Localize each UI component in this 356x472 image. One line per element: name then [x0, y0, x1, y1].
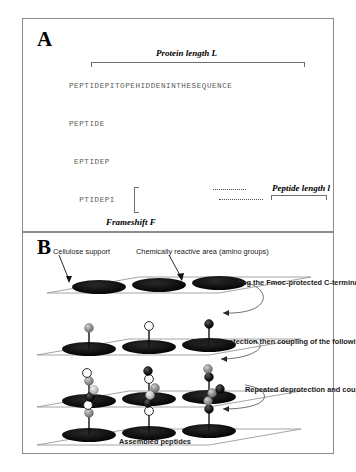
frameshift-bracket	[134, 187, 139, 213]
panel-b: B	[22, 232, 334, 454]
dotted-leader-upper	[213, 189, 246, 190]
assembled-peptides-label: Assembled peptides	[119, 437, 191, 446]
step2-label: Fmoc deprotection then coupling of the f…	[191, 337, 331, 346]
frameshift-label: Frameshift F	[106, 217, 156, 227]
residue-bead	[145, 322, 154, 331]
panel-a: A Protein length L PEPTIDEPITOPEHIDDENIN…	[22, 18, 334, 232]
figure-root: A Protein length L PEPTIDEPITOPEHIDDENIN…	[0, 0, 356, 472]
ladder-line: PEPTIDE	[69, 118, 232, 131]
reactive-area-label: Chemically reactive area (amino groups)	[136, 247, 269, 256]
reactive-spot	[72, 280, 126, 294]
step3-label: Repeated deprotection and coupling steps	[245, 385, 315, 394]
step1-label: Coupling the Fmoc-protected C-terminal r…	[219, 278, 329, 287]
ladder-line: PEPTIDEPITOPEHIDDENINTHESEQUENCE	[69, 80, 232, 93]
peptide-length-label: Peptide length l	[272, 183, 330, 193]
ladder-line: PTIDEPI	[69, 194, 232, 207]
cellulose-support-label: Cellulose support	[53, 247, 110, 256]
dotted-leader-lower	[219, 199, 263, 200]
reactive-spot	[132, 278, 186, 292]
residue-bead	[85, 324, 94, 333]
peptide-length-bracket	[271, 195, 327, 200]
peptide-chain	[84, 386, 99, 435]
panel-a-letter: A	[37, 29, 52, 50]
residue-bead	[205, 320, 214, 329]
ladder-line: EPTIDEP	[69, 156, 232, 169]
